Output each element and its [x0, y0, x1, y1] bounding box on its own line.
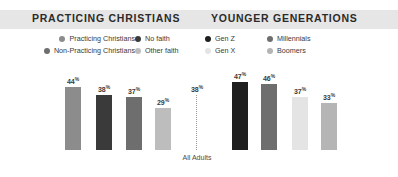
legend-dot-icon [135, 36, 141, 42]
bar-group-gen-x: 37% [292, 97, 308, 150]
legend-dot-icon [267, 48, 273, 54]
legend-label: No faith [145, 35, 170, 42]
legend-practicing-christians: Practicing Christians No faith Non-Pract… [14, 33, 199, 57]
bar-non-practicing-christians [96, 95, 112, 150]
legend-row: Non-Practicing Christians Other faith [14, 45, 199, 57]
legend-item-boomers: Boomers [267, 47, 367, 54]
bar-group-boomers: 33% [321, 103, 337, 150]
legend-row: Practicing Christians No faith [14, 33, 199, 45]
legend-item-other-faith: Other faith [135, 47, 193, 54]
legend-item-practicing-christians: Practicing Christians [15, 35, 135, 42]
legend-item-gen-x: Gen X [205, 47, 267, 54]
reference-dotted-line [196, 95, 197, 150]
legend-label: Millennials [277, 35, 311, 42]
panel-title-younger-generations: YOUNGER GENERATIONS [211, 12, 357, 24]
legend-dot-icon [267, 36, 273, 42]
bar-value-label: 37% [114, 86, 154, 95]
bar-chart-plot-area: 44% 38% 37% 29% 38% All Adults 47% [0, 62, 398, 177]
bar-gen-z [232, 82, 248, 150]
bar-value-label: 46% [249, 73, 289, 82]
legend-item-millennials: Millennials [267, 35, 367, 42]
legend-row: Gen Z Millennials [205, 33, 385, 45]
bar-group-millennials: 46% [261, 84, 277, 150]
bar-group-non-practicing-christians: 38% [96, 95, 112, 150]
legend-item-gen-z: Gen Z [205, 35, 267, 42]
legend-dot-icon [205, 48, 211, 54]
legend-dot-icon [44, 48, 50, 54]
bar-millennials [261, 84, 277, 150]
panel-title-practicing-christians: PRACTICING CHRISTIANS [32, 12, 180, 24]
legend-label: Practicing Christians [69, 35, 135, 42]
bar-no-faith [126, 97, 142, 150]
bar-group-gen-z: 47% [232, 82, 248, 150]
bar-other-faith [155, 108, 171, 150]
bar-value-label: 29% [143, 97, 183, 106]
reference-axis-label: All Adults [167, 154, 227, 161]
reference-value-label: 38% [177, 84, 217, 93]
legend-dot-icon [135, 48, 141, 54]
bar-group-other-faith: 29% [155, 108, 171, 150]
legend-dot-icon [59, 36, 65, 42]
bar-group-practicing-christians: 44% [65, 87, 81, 150]
legend-item-no-faith: No faith [135, 35, 193, 42]
bar-group-no-faith: 37% [126, 97, 142, 150]
legend-label: Non-Practicing Christians [54, 47, 135, 54]
legend-row: Gen X Boomers [205, 45, 385, 57]
legend-label: Boomers [277, 47, 306, 54]
bar-boomers [321, 103, 337, 150]
legend-label: Other faith [145, 47, 179, 54]
legend-younger-generations: Gen Z Millennials Gen X Boomers [205, 33, 385, 57]
bar-practicing-christians [65, 87, 81, 150]
legend-label: Gen X [215, 47, 235, 54]
bar-value-label: 33% [309, 92, 349, 101]
legend-item-non-practicing-christians: Non-Practicing Christians [15, 47, 135, 54]
bar-gen-x [292, 97, 308, 150]
legend-label: Gen Z [215, 35, 235, 42]
legend-dot-icon [205, 36, 211, 42]
